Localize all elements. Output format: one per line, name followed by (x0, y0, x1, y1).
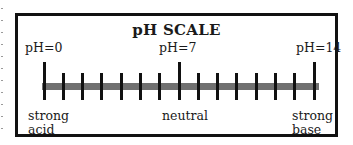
tick-ph-14 (313, 62, 316, 100)
tick-ph-2 (81, 73, 84, 100)
label-ph-0: pH=0 (25, 41, 62, 55)
label-strong-acid-line1: strong (28, 109, 69, 123)
label-neutral: neutral (162, 109, 208, 123)
tick-ph-7 (178, 62, 181, 100)
tick-ph-13 (293, 73, 296, 100)
tick-ph-10 (235, 73, 238, 100)
ph-scale-box: pH SCALE pH=0 pH=7 pH=14 strong acid neu… (15, 13, 338, 137)
margin-marks (1, 8, 5, 138)
label-ph-7: pH=7 (159, 41, 196, 55)
label-strong-base-line2: base (292, 123, 333, 137)
label-ph-14: pH=14 (296, 41, 341, 55)
tick-ph-1 (62, 73, 65, 100)
label-neutral-line1: neutral (162, 109, 208, 123)
label-strong-base: strong base (292, 109, 333, 137)
tick-ph-4 (120, 73, 123, 100)
label-strong-acid: strong acid (28, 109, 69, 137)
label-strong-acid-line2: acid (28, 123, 69, 137)
label-strong-base-line1: strong (292, 109, 333, 123)
tick-ph-8 (197, 73, 200, 100)
tick-ph-5 (139, 73, 142, 100)
tick-ph-11 (255, 73, 258, 100)
tick-ph-12 (274, 73, 277, 100)
tick-ph-3 (100, 73, 103, 100)
tick-ph-9 (216, 73, 219, 100)
tick-ph-6 (158, 73, 161, 100)
tick-ph-0 (43, 62, 46, 100)
diagram-title: pH SCALE (18, 21, 335, 39)
